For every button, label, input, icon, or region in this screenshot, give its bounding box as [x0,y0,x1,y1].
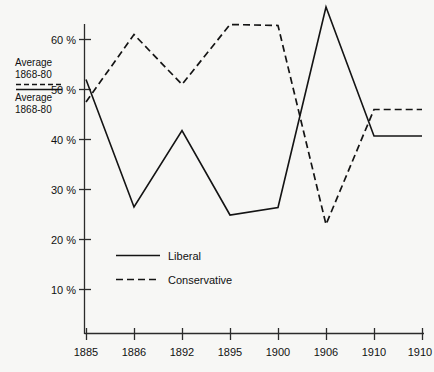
legend-label-liberal: Liberal [168,250,201,262]
legend-label-conservative: Conservative [168,274,232,286]
y-axis-label-40: 40 % [51,134,76,146]
line-chart: 60 % 50 % 40 % 30 % 20 % 10 % 1885 1886 … [0,0,434,372]
average-upper-label-line1: Average [15,57,53,68]
chart-container: 60 % 50 % 40 % 30 % 20 % 10 % 1885 1886 … [0,0,434,372]
y-axis-label-20: 20 % [51,234,76,246]
x-axis-label-1886: 1886 [122,346,146,358]
x-axis-label-1910-a: 1910 [362,346,386,358]
x-axis-label-1892: 1892 [170,346,194,358]
average-upper-label-line2: 1868-80 [15,69,52,80]
y-axis-label-10: 10 % [51,284,76,296]
x-axis-label-1906: 1906 [314,346,338,358]
average-lower-label-line2: 1868-80 [15,104,52,115]
x-axis-label-1895: 1895 [218,346,242,358]
y-axis-label-30: 30 % [51,184,76,196]
x-axis-label-1900: 1900 [266,346,290,358]
x-axis-label-1885: 1885 [74,346,98,358]
y-axis-label-60: 60 % [51,34,76,46]
average-lower-label-line1: Average [15,92,53,103]
x-axis-label-1910-b: 1910 [408,346,432,358]
